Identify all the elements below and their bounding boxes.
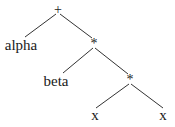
edge-plus-times1 [60, 14, 92, 38]
edge-times1-times2 [95, 48, 128, 74]
node-plus: + [54, 3, 62, 17]
tree-edges [0, 0, 175, 127]
node-beta: beta [44, 74, 69, 89]
node-times-2: * [127, 73, 134, 87]
edge-times1-beta [63, 48, 93, 73]
edge-times2-x-right [131, 84, 163, 108]
node-x-left: x [91, 108, 99, 123]
edge-times2-x-left [96, 84, 129, 108]
expression-tree: + alpha * beta * x x [0, 0, 175, 127]
edge-plus-alpha [25, 14, 56, 37]
node-times-1: * [91, 37, 98, 51]
node-x-right: x [159, 108, 167, 123]
node-alpha: alpha [5, 38, 37, 53]
